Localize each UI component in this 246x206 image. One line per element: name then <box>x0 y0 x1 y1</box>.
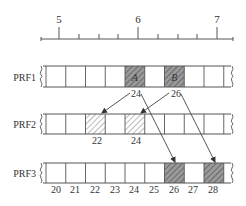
cell-number-label: 25 <box>149 184 159 195</box>
row-prf3: PRF3202122232425262728 <box>13 163 233 195</box>
time-scale: 567 <box>41 13 233 41</box>
break-squiggle-left-icon <box>40 66 42 87</box>
cell-number-label: 26 <box>171 88 181 99</box>
row-label: PRF1 <box>13 72 36 83</box>
cell-number-label: 27 <box>188 184 198 195</box>
major-tick-label: 6 <box>135 13 141 25</box>
prf-diagram: 567 PRF1AB2426PRF22224PRF320212223242526… <box>0 0 246 206</box>
break-squiggle-right-icon <box>231 114 233 134</box>
break-squiggle-left-icon <box>40 114 42 134</box>
cell-number-label: 20 <box>51 184 61 195</box>
cell-number-label: 22 <box>90 184 100 195</box>
cell-number-label: 28 <box>208 184 218 195</box>
cell-number-label: 24 <box>129 184 139 195</box>
row-label: PRF2 <box>13 119 36 130</box>
hatched-cell <box>204 163 224 183</box>
arrows <box>102 93 215 162</box>
cell-letter: A <box>131 72 139 83</box>
row-prf2: PRF22224 <box>13 114 233 146</box>
diagram-canvas: 567 PRF1AB2426PRF22224PRF320212223242526… <box>0 0 246 206</box>
break-squiggle-right-icon <box>231 163 233 183</box>
row-prf1: PRF1AB2426 <box>13 66 233 99</box>
cell-number-label: 24 <box>131 88 141 99</box>
cell-letter: B <box>171 72 177 83</box>
mapping-arrow-icon <box>181 94 215 162</box>
break-squiggle-left-icon <box>40 163 42 183</box>
hatched-cell <box>165 163 185 183</box>
cell-number-label: 21 <box>70 184 80 195</box>
hatched-cell <box>125 114 145 134</box>
major-tick-label: 5 <box>56 13 62 25</box>
cell-number-label: 26 <box>169 184 179 195</box>
break-squiggle-right-icon <box>231 66 233 87</box>
mapping-arrow-icon <box>141 94 175 162</box>
cell-number-label: 23 <box>110 184 120 195</box>
cell-number-label: 22 <box>92 135 102 146</box>
row-label: PRF3 <box>13 168 36 179</box>
mapping-arrow-icon <box>102 93 130 113</box>
prf-rows: PRF1AB2426PRF22224PRF3202122232425262728 <box>13 66 233 195</box>
major-tick-label: 7 <box>214 13 220 25</box>
cell-number-label: 24 <box>131 135 141 146</box>
hatched-cell <box>86 114 106 134</box>
